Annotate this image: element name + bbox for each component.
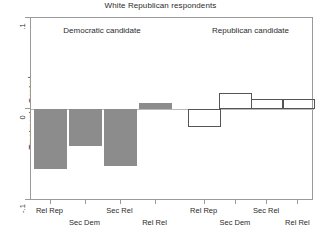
bar-democratic-rel-rep [34,109,67,169]
chart-title: White Republican respondents [0,1,321,10]
plot-area [30,17,313,199]
x-tick-mark [297,200,298,204]
bar-democratic-sec-rel [104,109,137,166]
x-tick-mark [155,200,156,204]
x-tick-label: Rel Rep [190,206,217,215]
x-tick-mark [85,200,86,204]
y-tick-label: .1 [18,17,27,37]
x-tick-mark [266,200,267,204]
x-tick-label: Sec Dem [69,218,100,227]
y-tick-label: 0 [18,108,27,128]
x-tick-mark [120,200,121,204]
bar-democratic-sec-dem [69,109,102,146]
x-tick-label: Sec Dem [219,218,250,227]
bar-republican-sec-rel [251,99,284,109]
x-axis-line [30,199,313,200]
y-tick-label: -.1 [18,199,27,219]
x-tick-label: Rel Rel [285,218,310,227]
bar-democratic-rel-rel [139,103,172,109]
x-tick-label: Sec Rel [106,206,132,215]
x-tick-mark [204,200,205,204]
bar-republican-rel-rep [188,109,221,127]
panel-caption-democratic: Democratic candidate [63,26,140,35]
bar-republican-sec-dem [219,93,252,109]
x-tick-label: Rel Rel [142,218,167,227]
x-tick-mark [235,200,236,204]
chart-figure: White Republican respondents Treatment -… [0,0,321,242]
x-tick-label: Sec Rel [253,206,279,215]
x-tick-label: Rel Rep [36,206,63,215]
bar-republican-rel-rel [282,99,315,109]
x-tick-mark [50,200,51,204]
panel-caption-republican: Republican candidate [212,26,289,35]
